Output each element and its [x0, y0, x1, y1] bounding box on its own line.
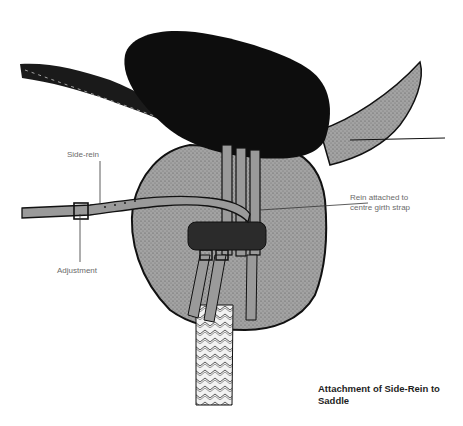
saddle-illustration — [0, 0, 463, 426]
caption-line-1: Attachment of Side-Rein to — [318, 383, 458, 395]
label-adjustment: Adjustment — [57, 266, 97, 276]
figure-caption: Attachment of Side-Rein to Saddle — [318, 383, 458, 407]
label-side-rein: Side-rein — [67, 150, 99, 160]
buckle-guard — [188, 222, 266, 250]
saddle-cantle — [320, 62, 445, 165]
label-rein-attached-line1: Rein attached to — [350, 193, 408, 203]
saddle-seat — [124, 31, 330, 159]
label-rein-attached-line2: centre girth strap — [350, 203, 410, 213]
caption-line-2: Saddle — [318, 395, 458, 407]
